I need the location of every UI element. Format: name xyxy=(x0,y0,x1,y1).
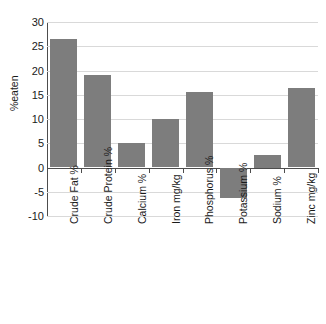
y-axis-tick-label: -10 xyxy=(4,211,44,222)
y-axis-tick-label: 10 xyxy=(4,114,44,125)
bar xyxy=(152,119,179,168)
y-axis-tick-label: -5 xyxy=(4,187,44,198)
y-axis-tick-label: 0 xyxy=(4,163,44,174)
y-axis-tick-label: 15 xyxy=(4,90,44,101)
bar-chart: %eaten 302520151050-5-10 Crude Fat %Crud… xyxy=(0,0,326,324)
x-axis-tick xyxy=(216,168,217,173)
bar xyxy=(50,39,77,168)
y-axis-tick-label: 30 xyxy=(4,17,44,28)
x-axis-tick xyxy=(115,168,116,173)
x-axis-tick xyxy=(149,168,150,173)
y-axis-tick-label: 25 xyxy=(4,41,44,52)
x-axis-tick xyxy=(284,168,285,173)
x-axis-label: Zinc mg/kg xyxy=(306,173,317,224)
x-axis-tick xyxy=(47,168,48,173)
x-axis-label: Crude Protein % xyxy=(103,147,114,224)
x-axis-tick xyxy=(183,168,184,173)
x-axis-label: Potassium % xyxy=(238,163,249,224)
x-axis-label: Calcium % xyxy=(137,174,148,224)
y-axis-tick-label: 5 xyxy=(4,138,44,149)
x-axis-tick xyxy=(250,168,251,173)
x-axis-label: Sodium % xyxy=(272,176,283,224)
bar xyxy=(118,143,145,168)
x-axis-label: Iron mg/kg xyxy=(171,174,182,224)
y-axis-tick-label: 20 xyxy=(4,66,44,77)
bar xyxy=(288,88,315,167)
x-axis-label: Crude Fat % xyxy=(69,165,80,224)
bar xyxy=(254,155,281,167)
x-axis-tick xyxy=(318,168,319,173)
x-axis-tick xyxy=(81,168,82,173)
x-axis-label: Phosphorus % xyxy=(204,156,215,224)
